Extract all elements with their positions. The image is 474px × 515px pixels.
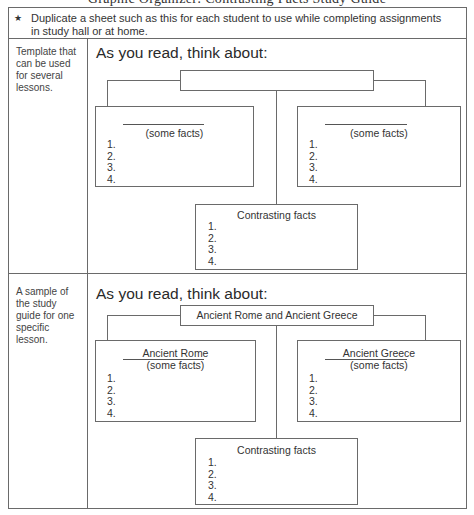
list-item: 1. — [309, 373, 318, 385]
instruction-note: ★ Duplicate a sheet such as this for eac… — [20, 12, 450, 38]
row1-left-subtitle: (some facts) — [96, 127, 253, 139]
row-label-template: Template that can be used for several le… — [16, 46, 82, 94]
row1-right-title-blank — [325, 124, 407, 125]
row1-contrasting-box[interactable]: Contrasting facts 1. 2. 3. 4. — [195, 204, 358, 270]
list-item: 1. — [107, 373, 116, 385]
row2-contrasting-box[interactable]: Contrasting facts 1. 2. 3. 4. — [195, 438, 358, 505]
list-item: 1. — [208, 457, 217, 469]
row1-connector-right-h — [373, 80, 425, 81]
row2-left-facts-box[interactable]: Ancient Rome (some facts) 1. 2. 3. 4. — [95, 340, 256, 422]
row2-contrasting-title: Contrasting facts — [196, 444, 357, 456]
row2-right-facts-box[interactable]: Ancient Greece (some facts) 1. 2. 3. 4. — [297, 340, 461, 422]
list-item: 4. — [309, 174, 318, 186]
asterisk-icon: ★ — [14, 12, 22, 25]
row1-connector-left-v — [107, 80, 108, 107]
list-item: 4. — [107, 408, 116, 420]
row2-heading: As you read, think about: — [96, 285, 267, 303]
row2-left-list: 1. 2. 3. 4. — [107, 373, 116, 420]
row2-connector-right-h — [373, 315, 425, 316]
row1-connector-left-h — [107, 80, 181, 81]
list-item: 4. — [309, 408, 318, 420]
row2-topic-box[interactable]: Ancient Rome and Ancient Greece — [180, 305, 374, 326]
list-item: 1. — [309, 139, 318, 151]
row1-contrasting-list: 1. 2. 3. 4. — [208, 221, 217, 268]
row1-connector-center — [276, 90, 277, 205]
list-item: 4. — [107, 174, 116, 186]
row2-connector-left-h — [107, 315, 181, 316]
row-label-sample: A sample of the study guide for one spec… — [16, 286, 82, 346]
list-item: 4. — [208, 492, 217, 504]
row1-left-list: 1. 2. 3. 4. — [107, 139, 116, 186]
row2-left-title: Ancient Rome — [96, 347, 255, 359]
row2-connector-center — [276, 325, 277, 439]
clipped-page-title: Graphic Organizer: Contrasting Facts Stu… — [0, 0, 474, 7]
row2-connector-right-v — [425, 315, 426, 341]
row2-contrasting-list: 1. 2. 3. 4. — [208, 457, 217, 504]
row2-right-title: Ancient Greece — [298, 347, 460, 359]
list-item: 4. — [208, 256, 217, 268]
row1-right-list: 1. 2. 3. 4. — [309, 139, 318, 186]
row1-right-facts-box[interactable]: (some facts) 1. 2. 3. 4. — [297, 106, 461, 187]
row2-topic-text: Ancient Rome and Ancient Greece — [181, 306, 373, 325]
instruction-text: Duplicate a sheet such as this for each … — [20, 12, 450, 38]
row1-right-subtitle: (some facts) — [298, 127, 460, 139]
row1-left-title-blank — [123, 124, 204, 125]
row-divider — [8, 273, 467, 274]
row2-right-subtitle: (some facts) — [298, 359, 460, 371]
row2-right-list: 1. 2. 3. 4. — [309, 373, 318, 420]
row1-left-facts-box[interactable]: (some facts) 1. 2. 3. 4. — [95, 106, 254, 187]
row1-connector-right-v — [425, 80, 426, 107]
row2-connector-left-v — [107, 315, 108, 341]
row1-heading: As you read, think about: — [96, 44, 267, 62]
list-item: 1. — [208, 221, 217, 233]
row1-contrasting-title: Contrasting facts — [196, 209, 357, 221]
row1-topic-box[interactable] — [180, 70, 374, 91]
note-divider — [8, 38, 467, 39]
row2-left-subtitle: (some facts) — [96, 359, 255, 371]
list-item: 1. — [107, 139, 116, 151]
